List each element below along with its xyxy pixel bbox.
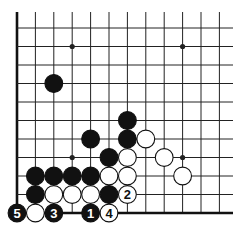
- black-stone: 3: [45, 204, 63, 222]
- white-stone-icon: [63, 186, 81, 204]
- white-stone-icon: [119, 167, 137, 185]
- black-stone-icon: [27, 167, 45, 185]
- black-stone-icon: [119, 130, 137, 148]
- black-stone: [27, 167, 45, 185]
- black-stone: [100, 149, 118, 167]
- white-stone-icon: [100, 167, 118, 185]
- star-point-icon: [70, 44, 75, 49]
- move-number-label: 5: [13, 206, 20, 221]
- black-stone-icon: [100, 149, 118, 167]
- black-stone-icon: [82, 167, 100, 185]
- black-stone-icon: [82, 130, 100, 148]
- black-stone: [45, 167, 63, 185]
- move-number-label: 1: [87, 206, 94, 221]
- black-stone: [82, 130, 100, 148]
- white-stone: [82, 186, 100, 204]
- white-stone-icon: [137, 130, 155, 148]
- black-stone: 5: [8, 204, 26, 222]
- star-point-icon: [180, 44, 185, 49]
- black-stone: [27, 186, 45, 204]
- white-stone-icon: [45, 186, 63, 204]
- white-stone: 2: [119, 186, 137, 204]
- white-stone: [100, 167, 118, 185]
- white-stone-icon: [27, 204, 45, 222]
- go-board: 25314: [0, 0, 245, 238]
- white-stone: [45, 186, 63, 204]
- white-stone-icon: [82, 186, 100, 204]
- star-point-icon: [70, 155, 75, 160]
- black-stone-icon: [45, 75, 63, 93]
- star-point-icon: [180, 155, 185, 160]
- black-stone: 1: [82, 204, 100, 222]
- white-stone-icon: [174, 167, 192, 185]
- white-stone-icon: [155, 149, 173, 167]
- black-stone-icon: [45, 167, 63, 185]
- black-stone-icon: [27, 186, 45, 204]
- black-stone: [100, 186, 118, 204]
- white-stone-icon: [119, 149, 137, 167]
- black-stone-icon: [63, 167, 81, 185]
- black-stone-icon: [119, 112, 137, 130]
- black-stone: [119, 130, 137, 148]
- white-stone: [119, 167, 137, 185]
- white-stone: [174, 167, 192, 185]
- white-stone: [63, 186, 81, 204]
- white-stone: [27, 204, 45, 222]
- black-stone: [119, 112, 137, 130]
- white-stone: 4: [100, 204, 118, 222]
- move-number-label: 4: [105, 206, 113, 221]
- black-stone: [82, 167, 100, 185]
- move-number-label: 3: [50, 206, 57, 221]
- black-stone: [45, 75, 63, 93]
- white-stone: [137, 130, 155, 148]
- white-stone: [119, 149, 137, 167]
- black-stone-icon: [100, 186, 118, 204]
- move-number-label: 2: [124, 187, 131, 202]
- black-stone: [63, 167, 81, 185]
- white-stone: [155, 149, 173, 167]
